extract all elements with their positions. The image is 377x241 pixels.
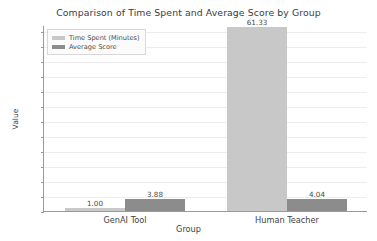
y-tick-mark (41, 197, 44, 198)
bar-chart-figure: Comparison of Time Spent and Average Sco… (0, 0, 377, 241)
gridline (44, 167, 367, 168)
legend-item[interactable]: Time Spent (Minutes) (52, 33, 140, 42)
gridline (44, 62, 367, 63)
legend-label: Time Spent (Minutes) (69, 34, 140, 42)
bar-value-label: 3.88 (147, 190, 163, 199)
gridline (44, 152, 367, 153)
y-tick-mark (41, 167, 44, 168)
legend-label: Average Score (69, 43, 117, 51)
y-axis-label: Value (11, 108, 20, 129)
gridline (44, 137, 367, 138)
bar-value-label: 4.04 (309, 190, 325, 199)
chart-title: Comparison of Time Spent and Average Sco… (0, 7, 377, 18)
y-tick-mark (41, 47, 44, 48)
y-tick-mark (41, 212, 44, 213)
y-tick-mark (41, 32, 44, 33)
legend-item[interactable]: Average Score (52, 42, 140, 51)
y-tick-mark (41, 182, 44, 183)
y-tick-mark (41, 92, 44, 93)
legend-swatch-icon (52, 36, 65, 40)
y-tick-mark (41, 137, 44, 138)
gridline (44, 182, 367, 183)
gridline (44, 122, 367, 123)
bar (227, 27, 287, 211)
y-tick-mark (41, 122, 44, 123)
bar (125, 199, 185, 211)
gridline (44, 107, 367, 108)
x-axis-label: Group (0, 224, 377, 234)
y-tick-mark (41, 77, 44, 78)
chart-legend: Time Spent (Minutes)Average Score (47, 29, 146, 55)
bar-value-label: 61.33 (247, 18, 268, 27)
gridline (44, 92, 367, 93)
legend-swatch-icon (52, 45, 65, 49)
bar-value-label: 1.00 (87, 199, 103, 208)
bar (65, 208, 125, 211)
y-tick-mark (41, 152, 44, 153)
gridline (44, 77, 367, 78)
bar (287, 199, 347, 211)
y-tick-mark (41, 62, 44, 63)
y-tick-mark (41, 107, 44, 108)
